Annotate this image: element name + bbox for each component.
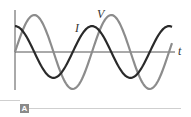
panel-label-badge: A [20, 104, 29, 113]
voltage-label: V [97, 8, 104, 20]
divider-left [0, 100, 20, 101]
v-i-phase-diagram [0, 0, 191, 117]
current-label: I [75, 22, 79, 34]
panel-divider [29, 108, 181, 109]
time-axis-label: t [178, 45, 181, 57]
